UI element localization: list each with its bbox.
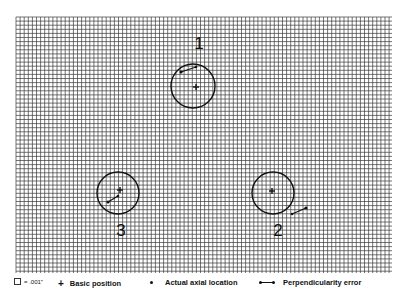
dot-icon: [150, 281, 153, 284]
grid-paper: [16, 17, 392, 273]
hole-markers: 123: [97, 34, 308, 240]
actual-axial-location-dot: [304, 206, 307, 209]
legend-scale-label: = .001": [24, 279, 43, 285]
legend-actual-axial-location: Actual axial location: [150, 278, 238, 287]
grid-square-icon: [14, 278, 21, 285]
legend-basic-position-label: Basic position: [70, 279, 121, 288]
hole-label: 1: [194, 34, 203, 53]
plus-icon: +: [58, 278, 64, 289]
legend-basic-position: + Basic position: [58, 278, 121, 289]
perpendicularity-error-line: [108, 196, 118, 202]
hole-label: 2: [273, 221, 282, 240]
actual-axial-location-dot: [179, 70, 182, 73]
legend-perpendicularity-error-label: Perpendicularity error: [283, 278, 361, 287]
perpendicularity-diagram: 123: [0, 0, 405, 278]
error-line-icon: [259, 281, 275, 284]
hole-label: 3: [116, 221, 125, 240]
legend-actual-axial-location-label: Actual axial location: [165, 278, 238, 287]
hole-3: 3: [97, 172, 139, 240]
actual-axial-location-dot: [106, 200, 109, 203]
hole-2: 2: [252, 172, 308, 240]
legend: = .001" + Basic position Actual axial lo…: [0, 278, 405, 294]
legend-perpendicularity-error: Perpendicularity error: [259, 278, 361, 287]
legend-scale: = .001": [14, 278, 43, 285]
